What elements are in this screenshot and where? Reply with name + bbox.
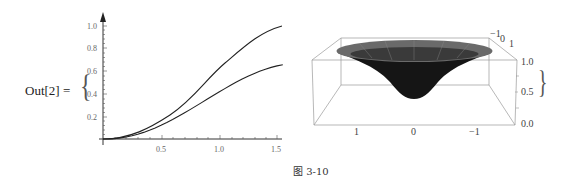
y-tick-0: 0 <box>500 33 505 44</box>
y-tick-1: 1 <box>509 38 514 49</box>
plots-canvas: 1.0 0.8 0.6 0.4 0.2 0.5 1.0 1.5 <box>0 0 564 185</box>
y-tick-0.8: 0.8 <box>87 44 97 53</box>
x-tick-0: 0 <box>411 126 416 137</box>
y-axis-arrow-icon <box>100 12 106 22</box>
z-tick-0.0: 0.0 <box>521 118 534 129</box>
right-brace-3d: { <box>538 63 548 101</box>
x-tick-1: 1 <box>354 126 359 137</box>
y-ticks <box>103 26 107 135</box>
x-tick-0.5: 0.5 <box>156 145 166 154</box>
figure-caption: 图 3-10 <box>293 163 329 178</box>
y-tick-0.6: 0.6 <box>87 67 97 76</box>
x-tick-1.0: 1.0 <box>214 145 224 154</box>
y-tick-0.2: 0.2 <box>87 113 97 122</box>
x-tick-1.5: 1.5 <box>271 145 281 154</box>
z-tick-1.0: 1.0 <box>521 56 534 67</box>
x-tick-neg1: −1 <box>469 126 480 137</box>
line-plot-2d: 1.0 0.8 0.6 0.4 0.2 0.5 1.0 1.5 <box>87 12 283 154</box>
y-tick-1.0: 1.0 <box>87 22 97 31</box>
y-tick-0.4: 0.4 <box>87 90 97 99</box>
z-tick-0.5: 0.5 <box>521 86 534 97</box>
surface-plot-3d: 1.0 0.5 0.0 1 0 −1 −1 0 1 <box>312 28 534 137</box>
x-ticks <box>115 135 277 139</box>
curve-sin-squared <box>103 65 283 139</box>
